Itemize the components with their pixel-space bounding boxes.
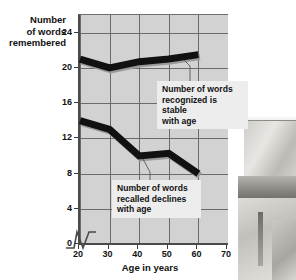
callout-recognized-line-1: Number of words	[162, 84, 244, 95]
callout-recalled: Number of words recalled declines with a…	[112, 180, 201, 218]
callout-recalled-line-1: Number of words	[117, 183, 197, 194]
callout-recognized: Number of words recognized is stable wit…	[157, 81, 248, 129]
callout-leader-lines	[0, 0, 296, 280]
callout-recalled-line-3: with age	[117, 204, 197, 215]
callout-recognized-line-2: recognized is stable	[162, 95, 244, 116]
callout-recalled-line-2: recalled declines	[117, 194, 197, 205]
callout-recognized-line-3: with age	[162, 116, 244, 127]
chart-figure: Number of words remembered 0481216202420…	[0, 0, 296, 280]
